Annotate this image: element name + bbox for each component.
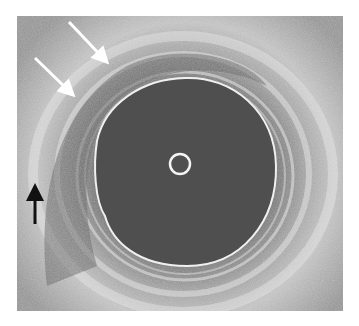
catheter-ring: [170, 154, 190, 174]
ultrasound-scan: [17, 16, 343, 311]
ultrasound-image: [17, 16, 343, 311]
